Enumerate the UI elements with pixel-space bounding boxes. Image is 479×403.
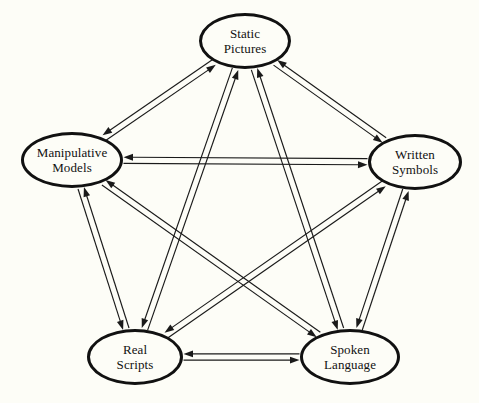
- representation-network-diagram: Static PicturesManipulative ModelsWritte…: [0, 0, 479, 403]
- node-label-written-symbols: Written Symbols: [388, 147, 442, 178]
- node-label-static-pictures: Static Pictures: [220, 26, 271, 57]
- node-label-real-scripts: Real Scripts: [113, 342, 158, 373]
- node-label-spoken-language: Spoken Language: [320, 342, 380, 373]
- node-layer: Static PicturesManipulative ModelsWritte…: [0, 0, 479, 403]
- node-manipulative-models[interactable]: Manipulative Models: [21, 132, 123, 188]
- node-label-manipulative-models: Manipulative Models: [33, 145, 112, 176]
- node-spoken-language[interactable]: Spoken Language: [300, 329, 400, 385]
- node-static-pictures[interactable]: Static Pictures: [199, 13, 291, 69]
- node-written-symbols[interactable]: Written Symbols: [368, 134, 462, 190]
- node-real-scripts[interactable]: Real Scripts: [87, 329, 183, 385]
